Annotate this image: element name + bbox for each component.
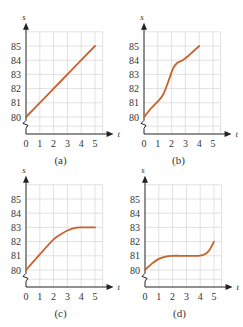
grid bbox=[26, 185, 103, 287]
x-tick-label: 2 bbox=[51, 291, 56, 302]
x-tick-label: 5 bbox=[93, 291, 98, 302]
x-axis-arrow-icon bbox=[107, 284, 114, 290]
x-axis-label: t bbox=[118, 282, 121, 292]
chart-panel-c: st808182838485012345(c) bbox=[11, 165, 121, 320]
y-tick-label: 80 bbox=[130, 265, 140, 276]
x-tick-label: 3 bbox=[65, 138, 70, 149]
grid bbox=[26, 32, 103, 134]
y-axis-with-break bbox=[23, 26, 28, 134]
axes bbox=[23, 23, 114, 137]
x-tick-label: 0 bbox=[24, 291, 29, 302]
x-axis-label: t bbox=[237, 282, 240, 292]
x-tick-label: 3 bbox=[184, 291, 189, 302]
y-axis-arrow-icon bbox=[23, 23, 29, 30]
y-tick-label: 85 bbox=[11, 41, 21, 52]
x-axis-arrow-icon bbox=[225, 131, 232, 137]
x-axis-arrow-icon bbox=[226, 284, 233, 290]
x-tick-label: 5 bbox=[211, 138, 216, 149]
y-tick-label: 81 bbox=[11, 97, 21, 108]
data-curve bbox=[26, 46, 95, 117]
chart-panel-b: st808182838485012345(b) bbox=[129, 12, 239, 167]
x-tick-label: 1 bbox=[37, 291, 42, 302]
chart-grid-2x2: st808182838485012345(a)st808182838485012… bbox=[0, 0, 243, 327]
panel-caption: (d) bbox=[173, 307, 186, 320]
x-tick-label: 0 bbox=[143, 291, 148, 302]
y-tick-label: 80 bbox=[11, 265, 21, 276]
y-tick-label: 83 bbox=[130, 222, 140, 233]
x-tick-label: 4 bbox=[197, 138, 202, 149]
y-tick-label: 82 bbox=[11, 83, 21, 94]
y-tick-label: 80 bbox=[11, 112, 21, 123]
x-axis-label: t bbox=[118, 129, 121, 139]
y-tick-label: 81 bbox=[130, 250, 140, 261]
y-axis-label: s bbox=[140, 12, 144, 22]
data-curve bbox=[26, 227, 95, 270]
y-tick-label: 83 bbox=[11, 222, 21, 233]
y-axis-arrow-icon bbox=[141, 23, 147, 30]
y-tick-label: 85 bbox=[11, 194, 21, 205]
y-tick-label: 84 bbox=[11, 55, 21, 66]
panel-caption: (b) bbox=[172, 154, 185, 167]
y-tick-label: 81 bbox=[129, 97, 139, 108]
y-tick-label: 84 bbox=[130, 208, 140, 219]
x-axis-arrow-icon bbox=[107, 131, 114, 137]
y-tick-label: 85 bbox=[130, 194, 140, 205]
grid bbox=[144, 32, 221, 134]
x-tick-label: 5 bbox=[93, 138, 98, 149]
y-tick-label: 82 bbox=[130, 236, 140, 247]
x-tick-label: 2 bbox=[169, 138, 174, 149]
y-axis-label: s bbox=[22, 12, 26, 22]
y-tick-label: 80 bbox=[129, 112, 139, 123]
y-axis-with-break bbox=[23, 179, 28, 287]
axes bbox=[23, 176, 114, 290]
x-tick-label: 4 bbox=[198, 291, 203, 302]
y-tick-label: 84 bbox=[129, 55, 139, 66]
chart-panel-d: st808182838485012345(d) bbox=[130, 165, 240, 320]
x-tick-label: 1 bbox=[156, 291, 161, 302]
x-axis-label: t bbox=[236, 129, 239, 139]
y-tick-label: 83 bbox=[11, 69, 21, 80]
figure: st808182838485012345(a)st808182838485012… bbox=[0, 0, 243, 327]
y-axis-arrow-icon bbox=[23, 176, 29, 183]
chart-panel-a: st808182838485012345(a) bbox=[11, 12, 121, 167]
x-tick-label: 4 bbox=[79, 138, 84, 149]
y-tick-label: 84 bbox=[11, 208, 21, 219]
x-tick-label: 2 bbox=[170, 291, 175, 302]
x-tick-label: 2 bbox=[51, 138, 56, 149]
x-tick-label: 0 bbox=[142, 138, 147, 149]
x-tick-label: 3 bbox=[65, 291, 70, 302]
axes bbox=[141, 23, 232, 137]
axes bbox=[142, 176, 233, 290]
y-axis-label: s bbox=[22, 165, 26, 175]
x-tick-label: 1 bbox=[37, 138, 42, 149]
panel-caption: (a) bbox=[54, 154, 67, 167]
y-axis-with-break bbox=[142, 179, 147, 287]
y-tick-label: 82 bbox=[11, 236, 21, 247]
y-axis-label: s bbox=[141, 165, 145, 175]
y-tick-label: 83 bbox=[129, 69, 139, 80]
x-tick-label: 5 bbox=[212, 291, 217, 302]
panel-caption: (c) bbox=[54, 307, 67, 320]
y-tick-label: 81 bbox=[11, 250, 21, 261]
x-tick-label: 1 bbox=[155, 138, 160, 149]
x-tick-label: 4 bbox=[79, 291, 84, 302]
x-tick-label: 3 bbox=[183, 138, 188, 149]
y-axis-arrow-icon bbox=[142, 176, 148, 183]
y-tick-label: 82 bbox=[129, 83, 139, 94]
x-tick-label: 0 bbox=[24, 138, 29, 149]
y-axis-with-break bbox=[141, 26, 146, 134]
y-tick-label: 85 bbox=[129, 41, 139, 52]
grid bbox=[145, 185, 222, 287]
